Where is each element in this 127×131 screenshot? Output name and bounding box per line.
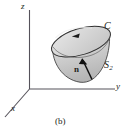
figure-container: z x y C S2 n (b) — [0, 0, 127, 131]
axis-label-z: z — [21, 2, 25, 11]
figure-caption: (b) — [55, 117, 66, 126]
surface-label-s2: S2 — [104, 60, 113, 72]
normal-vector-label-n: n — [74, 65, 79, 74]
boundary-curve-label-c: C — [104, 21, 111, 31]
x-axis — [5, 89, 30, 117]
axis-label-y: y — [116, 82, 120, 91]
surface-label-subscript: 2 — [109, 64, 113, 72]
axis-label-x: x — [11, 104, 15, 113]
